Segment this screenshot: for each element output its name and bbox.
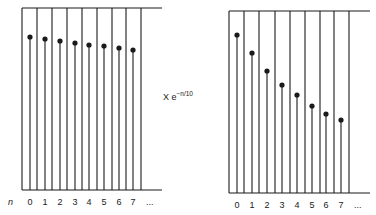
sample-dot bbox=[279, 82, 284, 87]
diagram-canvas: 01234567n... 01234567... X e−n/10 bbox=[0, 0, 376, 215]
sample-index-label: 5 bbox=[101, 197, 106, 207]
sequence-diagram: 01234567n... 01234567... X e−n/10 bbox=[0, 0, 376, 215]
sample-index-label: 2 bbox=[264, 200, 269, 210]
sample-dot bbox=[130, 47, 135, 52]
sample-dot bbox=[57, 38, 62, 43]
sample-dot bbox=[234, 32, 239, 37]
ellipsis-label: ... bbox=[146, 197, 154, 207]
panel-original-sequence: 01234567n... bbox=[8, 8, 162, 207]
sample-dot bbox=[86, 42, 91, 47]
sample-index-label: 6 bbox=[116, 197, 121, 207]
sample-dot bbox=[264, 68, 269, 73]
sample-index-label: 6 bbox=[323, 200, 328, 210]
sample-index-label: 2 bbox=[57, 197, 62, 207]
sample-index-label: 0 bbox=[234, 200, 239, 210]
ellipsis-label: ... bbox=[354, 200, 362, 210]
sample-dot bbox=[116, 45, 121, 50]
sample-dot bbox=[42, 36, 47, 41]
multiplier-label: X e−n/10 bbox=[163, 90, 193, 102]
multiplier-base: X e bbox=[163, 92, 177, 102]
sample-dot bbox=[323, 111, 328, 116]
sample-dot bbox=[338, 117, 343, 122]
sample-dot bbox=[27, 34, 32, 39]
sample-dot bbox=[101, 43, 106, 48]
sample-index-label: 7 bbox=[338, 200, 343, 210]
sample-index-label: 1 bbox=[42, 197, 47, 207]
sample-dot bbox=[249, 50, 254, 55]
sample-dot bbox=[294, 92, 299, 97]
sample-index-label: 0 bbox=[27, 197, 32, 207]
sample-dot bbox=[309, 103, 314, 108]
sample-index-label: 4 bbox=[86, 197, 91, 207]
multiplier-exponent: −n/10 bbox=[177, 90, 194, 97]
panel-weighted-sequence: 01234567... bbox=[229, 11, 370, 210]
sample-dot bbox=[72, 40, 77, 45]
sample-index-label: 7 bbox=[130, 197, 135, 207]
index-symbol-label: n bbox=[8, 197, 13, 207]
sample-index-label: 3 bbox=[72, 197, 77, 207]
sample-index-label: 4 bbox=[294, 200, 299, 210]
sample-index-label: 1 bbox=[249, 200, 254, 210]
sample-index-label: 5 bbox=[309, 200, 314, 210]
sample-index-label: 3 bbox=[279, 200, 284, 210]
